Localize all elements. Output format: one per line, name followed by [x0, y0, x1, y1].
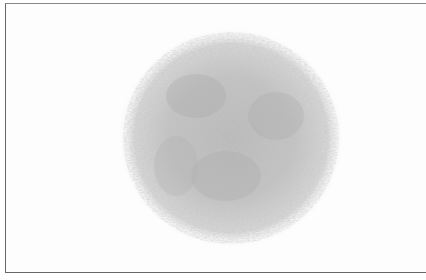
- fuzzy-ball-image: [116, 26, 346, 251]
- image-frame: Grayscale fuzzy ball texture on white ba…: [5, 3, 426, 273]
